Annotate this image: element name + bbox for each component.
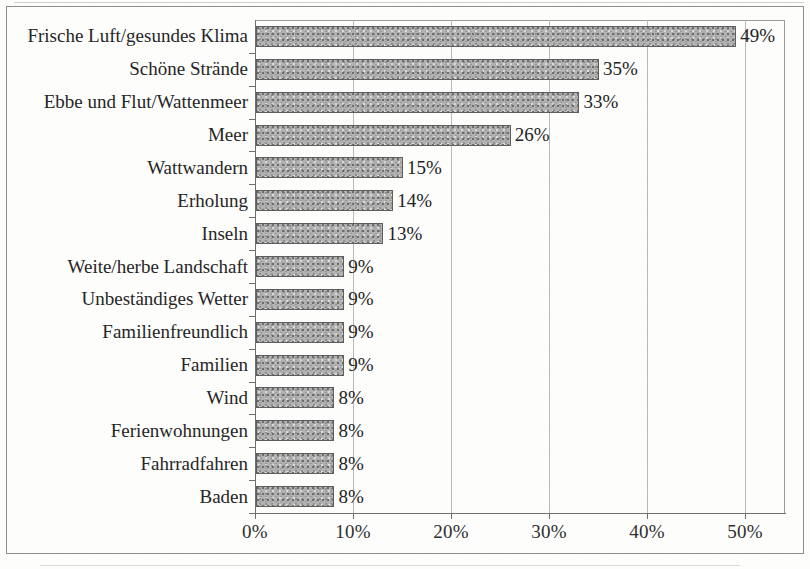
bar	[256, 190, 393, 211]
y-tick	[249, 53, 255, 54]
bar-value-label: 49%	[740, 26, 775, 45]
bar-value-label: 26%	[515, 125, 550, 144]
bar	[256, 125, 511, 146]
bar	[256, 420, 334, 441]
gridline-50	[745, 20, 746, 513]
category-label: Schöne Strände	[8, 59, 248, 78]
bar-value-label: 8%	[338, 421, 363, 440]
bar-value-label: 35%	[603, 59, 638, 78]
scan-edge-top	[14, 2, 804, 3]
category-label: Unbeständiges Wetter	[8, 289, 248, 308]
gridline-40	[647, 20, 648, 513]
bar-value-label: 8%	[338, 388, 363, 407]
bar-value-label: 9%	[348, 289, 373, 308]
x-tick-label: 20%	[416, 521, 486, 543]
x-tick-label: 0%	[220, 521, 290, 543]
bar	[256, 453, 334, 474]
category-label: Frische Luft/gesundes Klima	[8, 26, 248, 45]
x-tick-label: 10%	[318, 521, 388, 543]
x-tick-10	[353, 513, 354, 519]
bar-value-label: 33%	[583, 92, 618, 111]
category-label: Baden	[8, 487, 248, 506]
y-tick	[249, 151, 255, 152]
y-tick	[249, 250, 255, 251]
y-tick	[249, 283, 255, 284]
bar-value-label: 8%	[338, 487, 363, 506]
bar-value-label: 9%	[348, 257, 373, 276]
bar	[256, 223, 383, 244]
bar	[256, 355, 344, 376]
category-label: Familien	[8, 355, 248, 374]
y-tick	[249, 184, 255, 185]
x-tick-label: 40%	[612, 521, 682, 543]
bar-value-label: 8%	[338, 454, 363, 473]
category-label: Weite/herbe Landschaft	[8, 257, 248, 276]
x-axis-line	[255, 513, 786, 514]
x-tick-0	[255, 513, 256, 519]
bar	[256, 157, 403, 178]
y-tick	[249, 316, 255, 317]
bar-value-label: 13%	[387, 224, 422, 243]
category-label: Wind	[8, 388, 248, 407]
y-tick	[249, 86, 255, 87]
bar	[256, 256, 344, 277]
category-label: Ferienwohnungen	[8, 421, 248, 440]
y-tick	[249, 480, 255, 481]
bar	[256, 26, 736, 47]
x-tick-30	[549, 513, 550, 519]
y-tick	[249, 447, 255, 448]
bar	[256, 92, 579, 113]
bar	[256, 59, 599, 80]
bar	[256, 289, 344, 310]
bar-value-label: 14%	[397, 191, 432, 210]
bar	[256, 486, 334, 507]
category-label: Erholung	[8, 191, 248, 210]
y-tick	[249, 414, 255, 415]
y-tick	[249, 119, 255, 120]
bar-value-label: 9%	[348, 355, 373, 374]
x-tick-20	[451, 513, 452, 519]
category-label: Wattwandern	[8, 158, 248, 177]
category-label: Inseln	[8, 224, 248, 243]
x-tick-40	[647, 513, 648, 519]
category-label: Familienfreundlich	[8, 322, 248, 341]
x-tick-label: 30%	[514, 521, 584, 543]
bar	[256, 322, 344, 343]
bar-value-label: 9%	[348, 322, 373, 341]
bar-value-label: 15%	[407, 158, 442, 177]
y-tick	[249, 217, 255, 218]
y-tick	[249, 382, 255, 383]
category-label: Ebbe und Flut/Wattenmeer	[8, 92, 248, 111]
category-label: Meer	[8, 125, 248, 144]
chart-figure: 0%10%20%30%40%50% Frische Luft/gesundes …	[0, 0, 810, 569]
x-tick-50	[745, 513, 746, 519]
category-label: Fahrradfahren	[8, 454, 248, 473]
scan-edge-bottom	[40, 565, 740, 566]
x-tick-label: 50%	[710, 521, 780, 543]
bar	[256, 387, 334, 408]
y-tick	[249, 349, 255, 350]
